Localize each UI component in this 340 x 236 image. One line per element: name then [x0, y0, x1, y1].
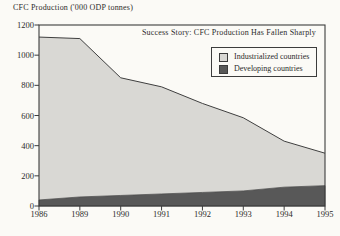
chart-annotation: Success Story: CFC Production Has Fallen…	[142, 28, 316, 37]
y-tick-label: 400	[0, 141, 34, 151]
x-tick-label: 1989	[65, 209, 95, 219]
legend-entry-industrialized: Industrialized countries	[219, 51, 316, 63]
x-tick-label: 1992	[187, 209, 217, 219]
x-tick-label: 1986	[24, 209, 54, 219]
x-tick-label: 1990	[106, 209, 136, 219]
y-tick-label: 200	[0, 171, 34, 181]
y-tick-label: 600	[0, 111, 34, 121]
x-tick-label: 1995	[310, 209, 340, 219]
x-tick-label: 1993	[228, 209, 258, 219]
legend-label: Developing countries	[234, 63, 303, 75]
legend-entry-developing: Developing countries	[219, 63, 316, 75]
developing-swatch-icon	[219, 65, 228, 74]
chart-page: CFC Production ('000 ODP tonnes) Success…	[0, 0, 340, 236]
industrialized-swatch-icon	[219, 53, 228, 62]
x-tick-label: 1994	[269, 209, 299, 219]
y-tick-label: 800	[0, 80, 34, 90]
legend: Industrialized countries Developing coun…	[211, 47, 317, 77]
x-tick-label: 1991	[147, 209, 177, 219]
legend-label: Industrialized countries	[234, 51, 309, 63]
y-tick-label: 1200	[0, 20, 34, 30]
y-tick-label: 1000	[0, 50, 34, 60]
